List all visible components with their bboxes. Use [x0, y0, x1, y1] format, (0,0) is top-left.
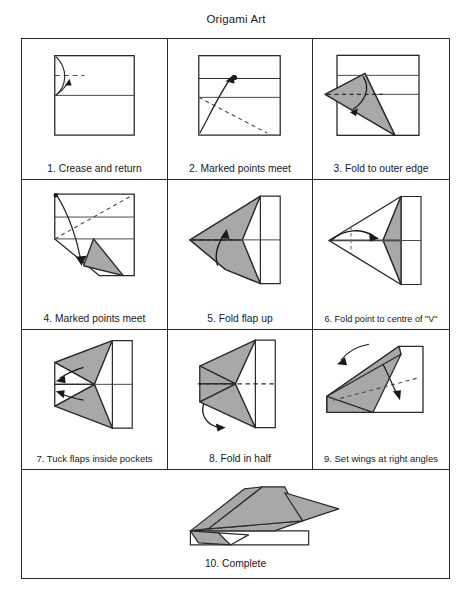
- step-3-diagram: [313, 39, 449, 163]
- step-7-diagram: [22, 330, 167, 454]
- step-panel-6: 6. Fold point to centre of "V": [313, 180, 449, 329]
- step-panel-8: 8. Fold in half: [168, 330, 313, 469]
- step-panel-10: 10. Complete: [22, 470, 449, 578]
- step-9-caption: 9. Set wings at right angles: [322, 454, 440, 469]
- step-5-diagram: [168, 180, 312, 313]
- step-6-diagram: [313, 180, 449, 314]
- step-panel-7: 7. Tuck flaps inside pockets: [22, 330, 168, 469]
- step-6-caption: 6. Fold point to centre of "V": [322, 314, 439, 329]
- step-panel-9: 9. Set wings at right angles: [313, 330, 449, 469]
- step-8-diagram: [168, 330, 312, 453]
- step-2-caption: 2. Marked points meet: [187, 163, 293, 179]
- steps-row-2: 4. Marked points meet 5. Fold flap up: [22, 180, 449, 330]
- step-1-caption: 1. Crease and return: [45, 163, 143, 179]
- steps-row-3: 7. Tuck flaps inside pockets 8. Fold in …: [22, 330, 449, 470]
- origami-instruction-page: Origami Art 1. Crease and return: [0, 0, 472, 595]
- steps-grid: 1. Crease and return 2. Marked points me…: [21, 38, 450, 579]
- step-panel-3: 3. Fold to outer edge: [313, 39, 449, 179]
- step-3-caption: 3. Fold to outer edge: [331, 163, 430, 179]
- step-4-caption: 4. Marked points meet: [42, 313, 148, 329]
- step-10-diagram: [22, 470, 449, 558]
- step-7-caption: 7. Tuck flaps inside pockets: [34, 454, 154, 469]
- step-panel-2: 2. Marked points meet: [168, 39, 313, 179]
- step-panel-1: 1. Crease and return: [22, 39, 168, 179]
- step-9-diagram: [313, 330, 449, 454]
- step-panel-5: 5. Fold flap up: [168, 180, 313, 329]
- step-4-diagram: [22, 180, 167, 313]
- step-1-diagram: [22, 39, 167, 163]
- step-2-diagram: [168, 39, 312, 163]
- steps-row-4: 10. Complete: [22, 470, 449, 578]
- step-8-caption: 8. Fold in half: [207, 453, 273, 469]
- step-10-caption: 10. Complete: [203, 558, 268, 578]
- page-title: Origami Art: [0, 13, 472, 25]
- step-5-caption: 5. Fold flap up: [205, 313, 274, 329]
- step-panel-4: 4. Marked points meet: [22, 180, 168, 329]
- steps-row-1: 1. Crease and return 2. Marked points me…: [22, 39, 449, 180]
